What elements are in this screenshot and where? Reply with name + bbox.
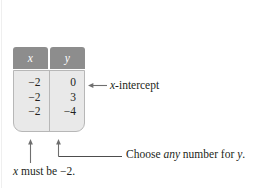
x-intercept-arrow-icon	[88, 83, 107, 88]
x-must-be-annotation: x must be −2.	[13, 165, 75, 178]
x-must-be-rest: must be −2.	[18, 165, 75, 177]
y-column-up-arrow-icon	[56, 139, 61, 157]
choose-any-annotation: Choose any number for y.	[126, 148, 245, 161]
x-column-up-arrow-icon	[28, 139, 33, 163]
choose-any-lead: Choose	[126, 148, 163, 160]
figure-canvas: x y −2 −2 −2 0 3 −4	[0, 0, 258, 188]
x-intercept-suffix: -intercept	[115, 79, 159, 91]
x-intercept-annotation: x-intercept	[110, 79, 159, 92]
choose-any-tail: .	[242, 148, 245, 160]
choose-any-emphasis: any	[163, 148, 180, 160]
choose-any-mid: number for	[180, 148, 237, 160]
